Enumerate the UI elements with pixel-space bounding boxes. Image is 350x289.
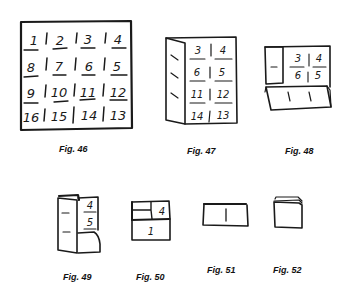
fig-47-diagram: 3 4 6 5 11 12 14 13 xyxy=(166,37,237,124)
cell-7: 7 xyxy=(55,59,64,74)
fig-49-diagram: 4 5 xyxy=(58,195,100,253)
cell-10: 10 xyxy=(51,85,68,100)
fig-46-diagram: 1 2 3 4 8 7 6 5 9 10 11 12 16 15 14 13 xyxy=(21,21,132,130)
cell-3: 3 xyxy=(295,53,301,64)
cell-14: 14 xyxy=(81,108,98,123)
cell-14: 14 xyxy=(191,111,204,122)
cell-4: 4 xyxy=(220,45,226,56)
fig-51-diagram xyxy=(203,204,248,226)
cell-4: 4 xyxy=(87,200,93,211)
cell-13: 13 xyxy=(217,110,230,121)
caption-fig-51: Fig. 51 xyxy=(207,265,236,275)
label-1: 1 xyxy=(148,226,154,237)
cell-5: 5 xyxy=(87,217,93,228)
caption-fig-48: Fig. 48 xyxy=(285,146,314,156)
cell-8: 8 xyxy=(27,60,35,75)
cell-5: 5 xyxy=(219,67,225,78)
caption-fig-52: Fig. 52 xyxy=(273,265,302,275)
caption-fig-49: Fig. 49 xyxy=(63,272,92,282)
caption-fig-50: Fig. 50 xyxy=(136,272,165,282)
figure-plate: 1 2 3 4 8 7 6 5 9 10 11 12 16 15 14 13 3… xyxy=(0,0,350,289)
fig-48-diagram: 3 4 6 5 xyxy=(265,46,331,110)
cell-12: 12 xyxy=(110,85,127,100)
cell-15: 15 xyxy=(51,109,68,124)
caption-fig-47: Fig. 47 xyxy=(187,146,216,156)
cell-11: 11 xyxy=(191,89,204,100)
cell-5: 5 xyxy=(113,59,121,74)
cell-1: 1 xyxy=(30,33,38,48)
fig-50-diagram: 4 1 xyxy=(132,201,170,240)
cell-4: 4 xyxy=(114,32,122,47)
cell-9: 9 xyxy=(27,86,35,101)
cell-12: 12 xyxy=(217,89,230,100)
cell-4: 4 xyxy=(316,53,322,64)
cell-3: 3 xyxy=(84,32,92,47)
cell-6: 6 xyxy=(85,59,93,74)
cell-3: 3 xyxy=(195,45,201,56)
cell-11: 11 xyxy=(80,85,97,100)
caption-fig-46: Fig. 46 xyxy=(59,144,88,154)
label-4: 4 xyxy=(159,206,165,217)
cell-13: 13 xyxy=(110,108,127,123)
cell-5: 5 xyxy=(315,70,321,81)
cell-16: 16 xyxy=(23,110,40,125)
fig-52-diagram xyxy=(274,197,302,228)
cell-6: 6 xyxy=(295,70,301,81)
cell-6: 6 xyxy=(194,67,200,78)
cell-2: 2 xyxy=(56,33,64,48)
